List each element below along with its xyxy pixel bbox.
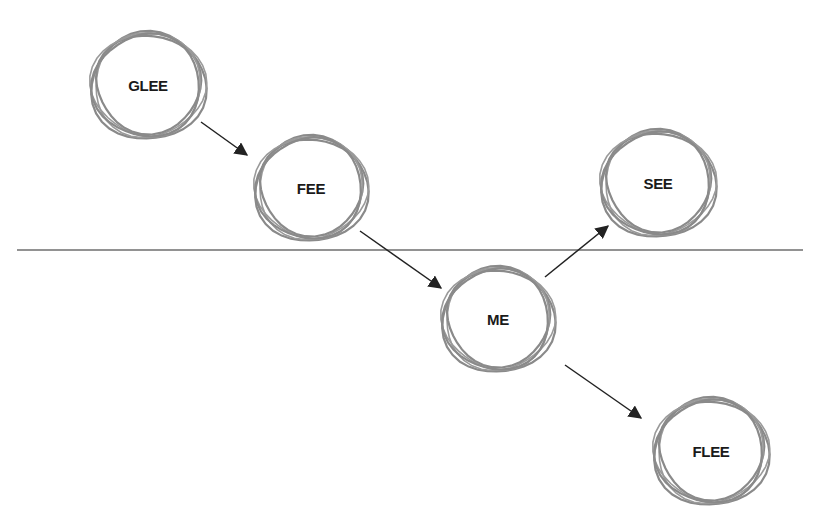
- arrow-fee-to-me: [360, 231, 441, 288]
- arrows-group: [201, 122, 641, 418]
- node-label-see: SEE: [643, 175, 672, 192]
- node-me: ME: [441, 266, 556, 372]
- node-label-fee: FEE: [297, 180, 326, 197]
- node-label-flee: FLEE: [692, 443, 729, 460]
- arrow-glee-to-fee: [201, 122, 247, 155]
- node-label-glee: GLEE: [128, 77, 168, 94]
- node-see: SEE: [600, 129, 717, 237]
- arrow-me-to-flee: [565, 365, 641, 418]
- node-flee: FLEE: [653, 397, 770, 505]
- node-label-me: ME: [487, 311, 509, 328]
- node-fee: FEE: [254, 135, 369, 241]
- arrow-me-to-see: [545, 226, 608, 277]
- node-glee: GLEE: [90, 31, 207, 139]
- flow-diagram: GLEE FEE ME SEE FLEE: [0, 0, 820, 528]
- nodes-group: GLEE FEE ME SEE FLEE: [90, 31, 770, 505]
